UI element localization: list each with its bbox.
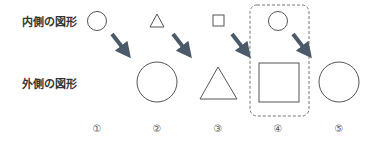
inner-triangle-icon-2 [150,14,164,27]
inner-circle-icon-1 [88,12,107,31]
shape-diagram [0,0,378,144]
arrow-icon-1 [112,34,126,52]
outer-circle-icon-2 [137,62,177,102]
item-number-3: ③ [208,123,228,134]
arrow-icon-2 [173,34,187,52]
inner-circle-icon-4 [269,12,288,31]
outer-triangle-icon-3 [200,67,237,99]
arrow-icon-4 [293,34,307,52]
arrow-icon-3 [232,34,246,52]
item-number-4: ④ [268,123,288,134]
inner-square-icon-3 [213,15,224,26]
item-number-5: ⑤ [329,123,349,134]
outer-square-icon-4 [259,63,299,102]
outer-circle-icon-5 [319,62,359,102]
item-number-2: ② [147,123,167,134]
item-number-1: ① [87,123,107,134]
